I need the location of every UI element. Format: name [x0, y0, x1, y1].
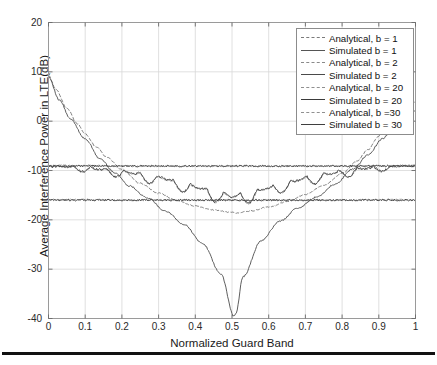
legend-item-label: Analytical, b =30	[329, 107, 400, 118]
legend-item[interactable]: Analytical, b = 20	[300, 82, 409, 94]
solid-line-icon	[300, 120, 326, 130]
legend-item[interactable]: Simulated b = 2	[300, 69, 409, 81]
dashed-line-icon	[300, 108, 326, 118]
legend-item-label: Simulated b = 20	[329, 95, 402, 106]
legend[interactable]: Analytical, b = 1Simulated b = 1Analytic…	[296, 28, 414, 135]
legend-item-label: Analytical, b = 2	[329, 57, 398, 68]
figure-container: Average Interference Power in LTE(dB) No…	[0, 0, 437, 365]
legend-item[interactable]: Analytical, b =30	[300, 106, 409, 118]
legend-item-label: Analytical, b = 1	[329, 33, 398, 44]
legend-item-label: Simulated b = 1	[329, 45, 397, 56]
bottom-divider-rule	[2, 352, 435, 355]
solid-line-icon	[300, 46, 326, 56]
dashed-line-icon	[300, 33, 326, 43]
solid-line-icon	[300, 70, 326, 80]
legend-item-label: Simulated b = 2	[329, 70, 397, 81]
legend-item[interactable]: Analytical, b = 2	[300, 57, 409, 69]
legend-item[interactable]: Simulated b = 1	[300, 44, 409, 56]
dashed-line-icon	[300, 58, 326, 68]
dashed-line-icon	[300, 83, 326, 93]
legend-item[interactable]: Analytical, b = 1	[300, 32, 409, 44]
legend-item[interactable]: Simulated b = 30	[300, 119, 409, 131]
legend-item[interactable]: Simulated b = 20	[300, 94, 409, 106]
legend-item-label: Analytical, b = 20	[329, 82, 403, 93]
solid-line-icon	[300, 95, 326, 105]
legend-item-label: Simulated b = 30	[329, 119, 402, 130]
